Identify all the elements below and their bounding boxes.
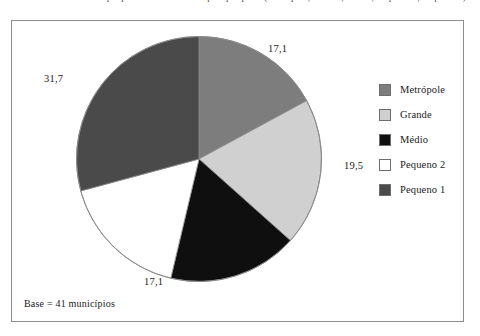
legend-item-pequeno-1[interactable]: Pequeno 1 (379, 177, 474, 202)
slice-value-label-grande: 19,5 (344, 160, 363, 171)
base-note: Base = 41 municípios (24, 298, 115, 309)
legend-swatch-icon (379, 84, 391, 96)
legend-item-label: Médio (400, 134, 428, 145)
legend-item-metr-pole[interactable]: Metrópole (379, 77, 474, 102)
figure-frame: 17,1 19,5 17,1 31,7 MetrópoleGrandeMédio… (11, 20, 464, 322)
pie-chart-svg (75, 35, 323, 283)
figure-caption-dash: – (63, 0, 68, 2)
pie-slice-group (77, 37, 322, 282)
legend-swatch-icon (379, 184, 391, 196)
legend-item-m-dio[interactable]: Médio (379, 127, 474, 152)
figure-caption-text: Distribuição percentual dos municípios p… (71, 0, 466, 2)
legend-item-label: Pequeno 2 (400, 159, 445, 170)
legend-swatch-icon (379, 109, 391, 121)
chart-legend: MetrópoleGrandeMédioPequeno 2Pequeno 1 (379, 77, 474, 202)
slice-value-label-pequeno2: 17,1 (144, 276, 163, 287)
figure-caption: GRÁFICO 1 – Distribuição percentual dos … (8, 0, 466, 2)
pie-chart (75, 35, 323, 283)
slice-value-label-pequeno1: 31,7 (44, 73, 63, 84)
legend-item-pequeno-2[interactable]: Pequeno 2 (379, 152, 474, 177)
legend-item-label: Metrópole (400, 84, 445, 95)
legend-swatch-icon (379, 134, 391, 146)
figure-caption-strip: GRÁFICO 1 – Distribuição percentual dos … (0, 0, 480, 12)
slice-value-label-metropole: 17,1 (268, 43, 287, 54)
legend-item-label: Grande (400, 109, 432, 120)
legend-item-label: Pequeno 1 (400, 184, 445, 195)
legend-swatch-icon (379, 159, 391, 171)
figure-caption-label: GRÁFICO 1 (8, 0, 61, 2)
legend-item-grande[interactable]: Grande (379, 102, 474, 127)
